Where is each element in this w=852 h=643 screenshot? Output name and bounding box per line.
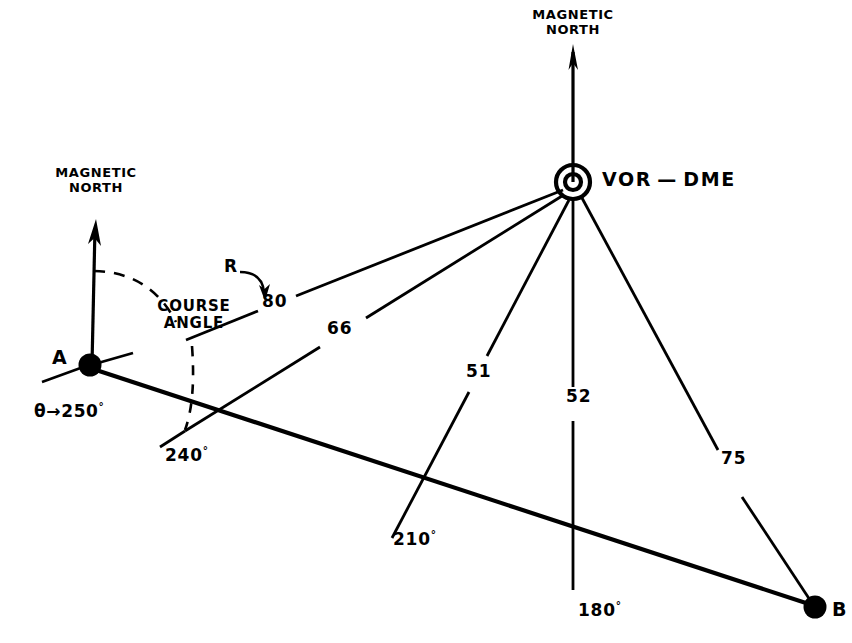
theta-bearing-label: θ→250° [8,383,104,438]
distance-52-label: 52 [566,388,591,406]
magnetic-north-label-top: MAGNETIC NORTH [514,8,632,37]
theta-value: 250 [61,401,98,421]
radial-210-value: 210 [393,529,431,549]
vor-dme-label: VOR — DME [602,170,736,190]
diagram-canvas: MAGNETIC NORTH MAGNETIC NORTH VOR — DME … [0,0,852,643]
distance-80-label: 80 [262,293,287,311]
radial-210-label: 210° [366,511,436,566]
magnetic-north-label-left: MAGNETIC NORTH [37,166,155,195]
magnetic-north-arrow-top [569,44,579,182]
radial-240-label: 240° [138,427,208,482]
point-b-label: B [832,600,847,620]
course-line-a-to-b [90,368,812,605]
magnetic-north-arrow-left [88,219,101,365]
theta-symbol: θ [34,401,46,421]
radial-240-value: 240 [165,445,203,465]
course-angle-arc [185,346,193,430]
point-b-marker [804,596,827,619]
theta-arrow-glyph: → [46,401,61,421]
point-a-marker [79,354,102,377]
distance-66-label: 66 [327,320,352,338]
r-annotation-label: R [224,258,238,276]
distance-51-label: 51 [466,363,491,381]
radial-240-degree-symbol: ° [203,444,208,456]
radial-180-label: 180° [551,582,621,637]
course-angle-label: COURSE ANGLE [139,298,249,332]
point-a-label: A [52,348,67,368]
radial-210-degree-symbol: ° [431,528,436,540]
theta-degree-symbol: ° [99,400,104,412]
radial-180-value: 180 [578,600,616,620]
radial-180-degree-symbol: ° [616,599,621,611]
distance-75-label: 75 [721,450,746,468]
